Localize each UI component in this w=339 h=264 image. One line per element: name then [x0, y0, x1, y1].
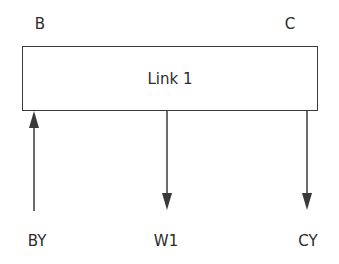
- force-arrows: [0, 0, 339, 264]
- arrow-by-up-icon: [29, 111, 39, 211]
- arrow-w1-label: W1: [154, 234, 178, 249]
- arrow-by-label: BY: [28, 234, 47, 249]
- arrow-cy-down-icon: [302, 111, 312, 210]
- arrow-w1-down-icon: [162, 111, 172, 210]
- arrow-cy-label: CY: [298, 234, 317, 249]
